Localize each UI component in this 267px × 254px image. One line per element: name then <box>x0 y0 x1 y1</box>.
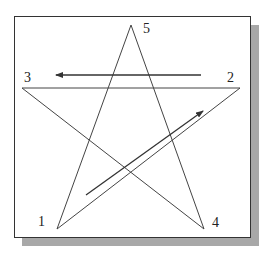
vertex-label-5: 5 <box>143 22 150 36</box>
vertex-label-2: 2 <box>227 71 234 85</box>
vertex-label-3: 3 <box>24 71 31 85</box>
vertex-label-1: 1 <box>38 215 45 229</box>
star-outline <box>22 25 240 229</box>
vertex-label-4: 4 <box>212 216 219 230</box>
